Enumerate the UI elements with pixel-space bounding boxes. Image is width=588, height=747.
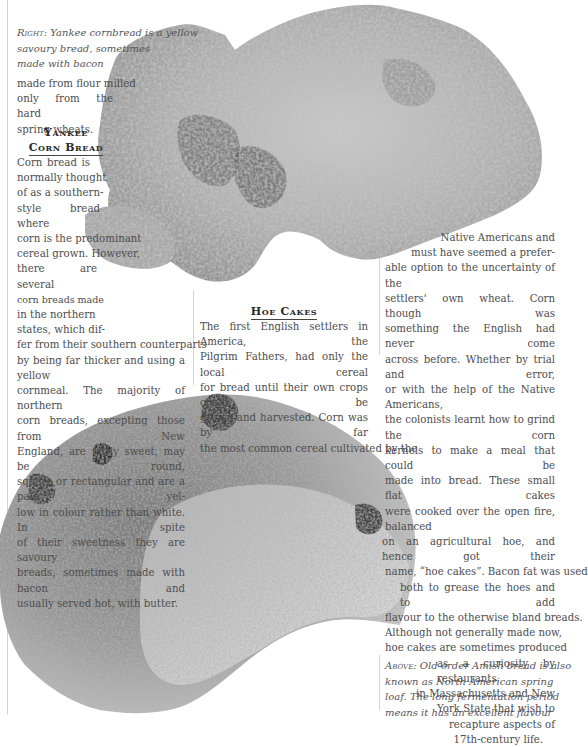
caption-lead: Right: xyxy=(17,27,47,38)
middle-body-text: The first English settlers in America, t… xyxy=(200,319,368,456)
left-body-text: Corn bread is normally thought of as a s… xyxy=(17,155,185,611)
caption-lead: Above: xyxy=(385,660,417,671)
heading-hoe-cakes: Hoe Cakes xyxy=(200,304,368,319)
caption-cornbread: Right: Yankee cornbread is a yellow savo… xyxy=(17,25,187,72)
caption-amish-bread: Above: Old-order Amish bread is also kno… xyxy=(385,658,565,720)
column-rule-middle xyxy=(193,290,194,385)
heading-yankee-corn-bread: Yankee Corn Bread xyxy=(17,125,115,155)
